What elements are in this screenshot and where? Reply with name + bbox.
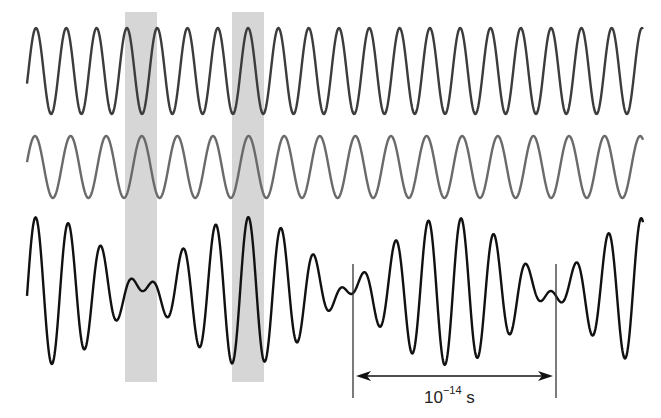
wave-sum bbox=[27, 217, 643, 365]
highlight-band-1 bbox=[125, 12, 157, 382]
beats-diagram bbox=[0, 0, 661, 418]
label-unit: s bbox=[462, 388, 475, 407]
wave-middle bbox=[27, 136, 643, 198]
label-exponent: −14 bbox=[443, 384, 462, 396]
wave-top bbox=[27, 28, 643, 114]
label-base: 10 bbox=[424, 388, 443, 407]
beat-period-arrow bbox=[356, 371, 553, 381]
beat-period-label: 10−14 s bbox=[424, 386, 475, 408]
